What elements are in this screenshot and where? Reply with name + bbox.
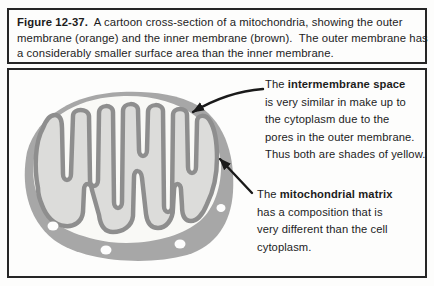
- caption-line-1: Figure 12-37. A cartoon cross-section of…: [17, 15, 417, 31]
- annotation-lead-text: The: [265, 78, 285, 90]
- annotation-term: intermembrane space: [288, 78, 406, 90]
- annotation-term-line: The intermembrane space: [265, 76, 425, 94]
- annotation-intermembrane-space: The intermembrane space is very similar …: [265, 76, 425, 164]
- annotation-line: is very similar in make up to: [265, 94, 425, 112]
- pore: [48, 222, 59, 231]
- annotation-term: mitochondrial matrix: [280, 188, 393, 200]
- annotation-line: the cytoplasm due to the: [265, 111, 425, 129]
- figure-caption-box: Figure 12-37. A cartoon cross-section of…: [7, 8, 427, 64]
- pore: [217, 204, 226, 212]
- caption-line-2: membrane (orange) and the inner membrane…: [17, 31, 417, 47]
- pore: [175, 240, 186, 249]
- annotation-line: pores in the outer membrane.: [265, 129, 425, 147]
- annotation-lead-text: The: [257, 188, 277, 200]
- caption-line-1-text: A cartoon cross-section of a mitochondri…: [88, 16, 403, 28]
- figure-page: Figure 12-37. A cartoon cross-section of…: [0, 0, 434, 286]
- annotation-line: has a composition that is: [257, 204, 392, 222]
- figure-number-label: Figure 12-37.: [17, 16, 88, 28]
- figure-diagram-box: The intermembrane space is very similar …: [7, 68, 427, 278]
- annotation-line: Thus both are shades of yellow.: [265, 146, 425, 164]
- annotation-term-line: The mitochondrial matrix: [257, 186, 392, 204]
- caption-line-3: a considerably smaller surface area than…: [17, 46, 417, 62]
- annotation-mitochondrial-matrix: The mitochondrial matrix has a compositi…: [257, 186, 392, 256]
- annotation-line: very different than the cell: [257, 221, 392, 239]
- arrow-to-intermembrane-space: [193, 89, 263, 112]
- annotation-line: cytoplasm.: [257, 239, 392, 257]
- pore: [101, 246, 112, 255]
